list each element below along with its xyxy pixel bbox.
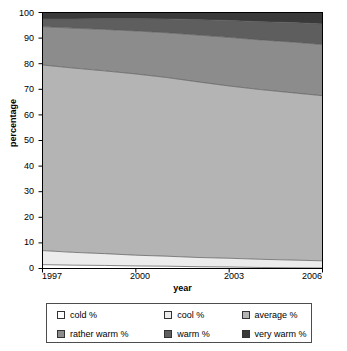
legend-swatch-cold: [57, 311, 65, 319]
legend-item-average[interactable]: average %: [242, 310, 311, 320]
legend-item-very-warm[interactable]: very warm %: [242, 329, 311, 339]
stacked-area-chart: percentage 100 90 80 70 60 50 40 30 20 1…: [0, 0, 347, 296]
legend-label-warm: warm %: [177, 329, 210, 339]
legend-swatch-very-warm: [242, 330, 250, 338]
area-series-group: [43, 13, 323, 269]
legend-item-rather-warm[interactable]: rather warm %: [47, 329, 162, 339]
legend-item-warm[interactable]: warm %: [162, 329, 241, 339]
legend-label-cool: cool %: [177, 310, 204, 320]
chart-legend: cold % cool % average % rather warm % wa…: [46, 303, 312, 343]
legend-swatch-cool: [164, 311, 172, 319]
legend-item-cool[interactable]: cool %: [162, 310, 241, 320]
plot-area: [0, 0, 347, 296]
area-band-average: [43, 65, 323, 261]
legend-item-cold[interactable]: cold %: [47, 310, 162, 320]
legend-swatch-average: [242, 311, 250, 319]
figure: percentage 100 90 80 70 60 50 40 30 20 1…: [0, 0, 347, 351]
legend-swatch-rather-warm: [57, 330, 65, 338]
legend-label-cold: cold %: [70, 310, 97, 320]
legend-row: cold % cool % average %: [47, 305, 311, 324]
legend-label-average: average %: [255, 310, 298, 320]
legend-row: rather warm % warm % very warm %: [47, 324, 311, 343]
legend-label-rather-warm: rather warm %: [70, 329, 129, 339]
legend-swatch-warm: [164, 330, 172, 338]
legend-label-very-warm: very warm %: [255, 329, 307, 339]
